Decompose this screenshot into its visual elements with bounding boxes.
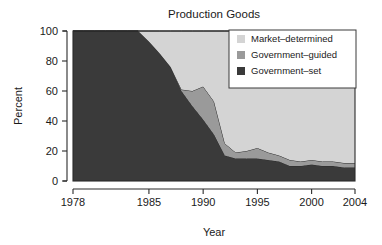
x-tick-label-1978: 1978 [61,196,85,208]
x-tick-label-1990: 1990 [191,196,215,208]
chart-legend: Market–determinedGovernment–guidedGovern… [229,30,356,88]
x-axis-title: Year [203,226,226,238]
x-tick-label-1995: 1995 [245,196,269,208]
y-tick-label-60: 60 [46,85,58,97]
legend-swatch-1 [237,51,245,59]
legend-label-0: Market–determined [251,33,333,44]
y-axis-title: Percent [12,87,24,125]
legend-swatch-0 [237,35,245,43]
y-tick-label-80: 80 [46,55,58,67]
y-tick-label-40: 40 [46,115,58,127]
x-tick-label-2000: 2000 [299,196,323,208]
production-goods-area-chart: Production Goods 020406080100 1978198519… [0,0,382,245]
legend-swatch-2 [237,67,245,75]
chart-title: Production Goods [168,8,260,20]
y-tick-label-20: 20 [46,145,58,157]
x-tick-label-1985: 1985 [137,196,161,208]
legend-label-1: Government–guided [251,49,337,60]
legend-label-2: Government–set [251,65,322,76]
y-tick-label-0: 0 [52,175,58,187]
y-tick-label-100: 100 [40,25,58,37]
x-tick-label-2004: 2004 [343,196,367,208]
